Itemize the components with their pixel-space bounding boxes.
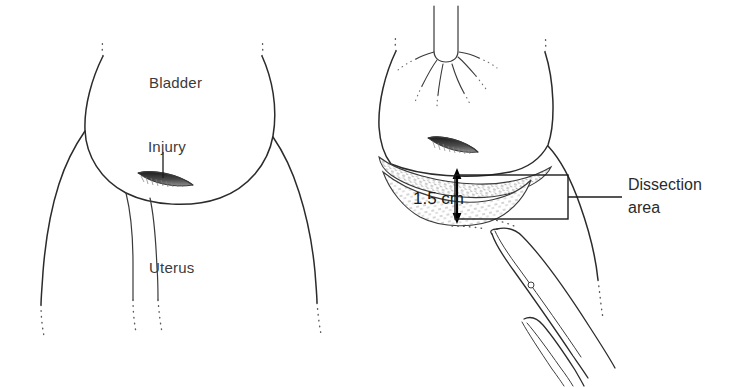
right-panel-group: 1.5 cm Dissection area — [379, 6, 702, 386]
fiber-r3 — [459, 52, 479, 58]
fiber-l2 — [422, 60, 437, 86]
dissection-label-line2: area — [628, 199, 660, 216]
uterus-label: Uterus — [149, 259, 194, 276]
fiber-c1 — [438, 64, 443, 95]
scissors-second-blade-edge — [522, 322, 564, 386]
fiber-r1-dotted — [464, 93, 471, 106]
cervix-dotted-left — [133, 300, 136, 332]
bladder-dotted-top-left — [102, 40, 103, 56]
fiber-l1 — [416, 52, 434, 59]
fiber-c1-dotted — [437, 95, 438, 110]
scissors-second-blade-inner — [527, 323, 573, 386]
injury-slit-icon-right — [428, 137, 478, 154]
cervix-outline-left — [126, 193, 133, 300]
bladder-right-dotted-top-left — [395, 35, 396, 51]
left-panel-group: Bladder Injury Uterus — [41, 40, 321, 336]
cervix-dotted-right — [158, 300, 162, 332]
fiber-r3-dotted — [479, 58, 497, 68]
cervix-outline-right — [150, 198, 158, 300]
fiber-l1-dotted — [398, 59, 416, 70]
anatomy-illustration: Bladder Injury Uterus — [0, 0, 747, 387]
fiber-r1 — [452, 64, 464, 93]
bladder-label: Bladder — [149, 74, 202, 91]
uterus-dotted-right — [317, 303, 321, 334]
injury-label: Injury — [148, 138, 186, 155]
tissue-strand-dotted-left — [452, 226, 486, 229]
pelvic-sidewall-right — [548, 146, 598, 280]
dimension-arrow-head-up — [453, 168, 462, 179]
urachus-tube-outline — [434, 6, 458, 62]
bladder-right-dotted-top-right — [545, 36, 546, 52]
scissors-pivot-screw — [528, 282, 534, 288]
dissection-label-line1: Dissection — [628, 176, 702, 193]
uterus-outline-right — [273, 137, 317, 303]
fiber-r2-dotted — [476, 76, 486, 89]
urachus-tube — [434, 6, 458, 62]
bladder-outline-right — [379, 51, 553, 176]
bladder-dotted-top-right — [262, 40, 263, 56]
fiber-l2-dotted — [415, 86, 422, 102]
scissors-outer-edge — [497, 228, 615, 368]
injury-slit-icon — [138, 172, 193, 187]
figure-root: Bladder Injury Uterus — [0, 0, 747, 387]
surgical-scissors-icon — [491, 228, 615, 386]
pelvic-sidewall-dotted — [598, 280, 603, 318]
fiber-r2 — [458, 57, 476, 76]
urachus-fibers — [398, 52, 497, 110]
dimension-label: 1.5 cm — [413, 189, 464, 208]
uterus-outline-left — [41, 131, 85, 305]
uterus-dotted-left — [41, 305, 44, 336]
